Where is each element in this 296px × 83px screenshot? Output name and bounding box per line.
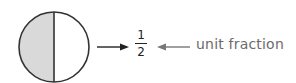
denominator: 2 — [134, 46, 148, 58]
right-arrow-icon — [97, 44, 129, 51]
unit-fraction-label: unit fraction — [196, 36, 284, 52]
fraction-bar — [135, 43, 147, 44]
fraction-one-half: 1 2 — [134, 29, 148, 58]
circle-halves — [19, 12, 89, 82]
left-arrow-icon — [157, 44, 190, 51]
numerator: 1 — [134, 29, 148, 41]
